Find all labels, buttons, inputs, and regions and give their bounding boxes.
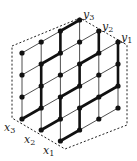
lattice-node (19, 116, 24, 121)
lattice-node (58, 138, 63, 143)
lattice-node (77, 83, 82, 88)
lattice-node (58, 94, 63, 99)
lattice-node (77, 127, 82, 132)
label-x3: x3 (4, 121, 15, 135)
lattice-node (39, 39, 44, 44)
lattice-node (96, 50, 101, 55)
grid-edge (60, 64, 79, 75)
lattice-node (96, 116, 101, 121)
label-y3: y3 (82, 8, 94, 22)
lattice-node (19, 94, 24, 99)
lattice-node (39, 127, 44, 132)
lattice-node (19, 72, 24, 77)
lattice-node (96, 94, 101, 99)
lattice-node (77, 105, 82, 110)
label-y2: y2 (101, 20, 113, 34)
grid-edge (41, 31, 60, 42)
lattice-path-3 (22, 20, 80, 119)
lattice-path-diagram: y3 y2 y1 x3 x2 x1 (0, 0, 137, 161)
lattice-node (19, 50, 24, 55)
label-x1: x1 (43, 144, 54, 158)
grid-edge (41, 75, 60, 86)
lattice-node (58, 72, 63, 77)
lattice-node (58, 50, 63, 55)
grid-edge (80, 119, 99, 130)
grid-edge (99, 42, 118, 53)
lattice-path-2 (41, 31, 99, 130)
grid-edge (41, 97, 60, 108)
lattice-node (77, 17, 82, 22)
lattice-node (115, 39, 120, 44)
grid-edge (99, 64, 118, 75)
lattice-node (58, 116, 63, 121)
lattice-node (96, 28, 101, 33)
grid-edge (60, 108, 79, 119)
lattice-node (58, 28, 63, 33)
grid-edge (80, 75, 99, 86)
grid-edge (60, 42, 79, 53)
lattice-node (39, 83, 44, 88)
lattice-node (39, 61, 44, 66)
lattice-node (77, 39, 82, 44)
grid-edge (99, 108, 118, 119)
grid-lines (22, 20, 118, 141)
grid-edge (22, 86, 41, 97)
lattice-node (115, 83, 120, 88)
lattice-node (115, 61, 120, 66)
lattice-paths (22, 20, 118, 141)
grid-edge (22, 42, 41, 53)
label-y1: y1 (120, 31, 132, 45)
lattice-node (115, 105, 120, 110)
label-x2: x2 (24, 133, 35, 147)
lattice-node (39, 105, 44, 110)
lattice-node (77, 61, 82, 66)
grid-edge (80, 31, 99, 42)
lattice-node (96, 72, 101, 77)
dashed-hexagon-outline (12, 18, 127, 149)
grid-edge (22, 64, 41, 75)
